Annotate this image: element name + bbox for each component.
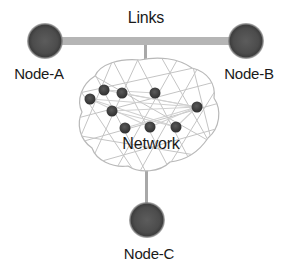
network-label: Network: [122, 135, 179, 153]
inner-node: [171, 122, 182, 133]
inner-node: [117, 88, 128, 99]
inner-node: [99, 85, 110, 96]
inner-node: [145, 122, 156, 133]
inner-node: [150, 88, 161, 99]
network-diagram: Links Node-A Node-B Network Node-C: [0, 0, 285, 274]
network-cloud: [70, 55, 230, 180]
node-a-circle: [27, 23, 63, 59]
node-c-label: Node-C: [124, 245, 175, 262]
node-a-label: Node-A: [14, 65, 64, 82]
node-c-circle: [129, 202, 165, 238]
inner-node: [85, 94, 96, 105]
node-b-circle: [228, 23, 264, 59]
inner-node: [120, 123, 131, 134]
link-a-b: [62, 37, 230, 45]
inner-node: [192, 102, 203, 113]
inner-node: [107, 106, 118, 117]
node-b-label: Node-B: [224, 65, 274, 82]
links-label: Links: [128, 9, 164, 27]
